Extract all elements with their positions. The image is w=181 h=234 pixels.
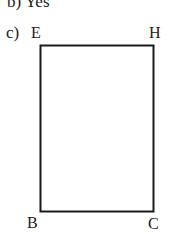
rectangle-figure [0, 0, 181, 234]
rectangle-ehcb [41, 46, 154, 212]
